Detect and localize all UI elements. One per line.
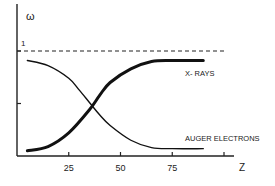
xrays-label: X- RAYS xyxy=(185,69,214,78)
chart: 255075 1 ω Z X- RAYS AUGER ELECTRONS xyxy=(0,0,275,186)
xrays-curve xyxy=(27,60,203,150)
x-ticks: 255075 xyxy=(64,152,224,173)
auger-curve xyxy=(27,60,203,148)
x-tick-label: 75 xyxy=(167,163,177,173)
auger-label: AUGER ELECTRONS xyxy=(185,134,260,143)
y-tick-label: 1 xyxy=(21,39,26,48)
y-axis-label: ω xyxy=(26,10,35,22)
x-tick-label: 25 xyxy=(64,163,74,173)
x-tick-label: 50 xyxy=(115,163,125,173)
x-axis-label: Z xyxy=(239,162,245,173)
y-ticks: 1 xyxy=(17,39,26,104)
